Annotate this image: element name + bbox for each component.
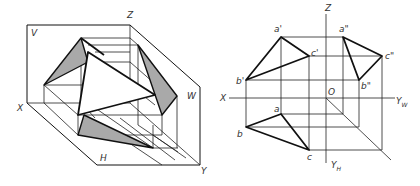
axonometric-view: V Z X W H Y: [16, 10, 208, 176]
axis-label-z: Z: [324, 3, 332, 13]
point-label-c-double-prime: c": [385, 51, 394, 61]
plane-label-w: W: [187, 91, 197, 101]
side-view-triangle: [343, 37, 382, 80]
w-projection-triangle: [138, 45, 177, 115]
point-label-a-prime: a': [274, 24, 282, 34]
point-label-b-double-prime: b": [361, 81, 371, 91]
point-label-b-prime: b': [236, 76, 244, 86]
point-label-c: c: [307, 152, 312, 162]
axis-label-x: X: [16, 103, 24, 113]
top-view-triangle: [246, 114, 309, 150]
orthographic-view: Z X O YW YH a' c' b' a" c" b" a b c: [219, 3, 409, 172]
45-degree-line: [326, 98, 391, 160]
axis-label-z: Z: [126, 10, 134, 20]
axis-label-x: X: [219, 93, 227, 103]
axis-label-y: Y: [201, 166, 208, 176]
point-label-a: a: [274, 104, 280, 114]
axis-label-yh: YH: [331, 160, 342, 172]
origin-label-o: O: [328, 87, 335, 97]
diagram-canvas: V Z X W H Y: [0, 0, 420, 186]
h-projection-triangle: [78, 115, 153, 148]
axis-label-yw: YW: [396, 96, 409, 108]
plane-label-h: H: [100, 153, 107, 163]
front-view-triangle: [246, 37, 309, 80]
point-label-b: b: [237, 129, 243, 139]
plane-label-v: V: [31, 28, 38, 38]
point-label-a-double-prime: a": [339, 24, 349, 34]
point-label-c-prime: c': [311, 48, 318, 58]
